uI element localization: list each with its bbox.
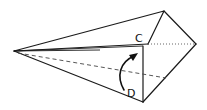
fold-line-dashed <box>18 53 166 78</box>
upper-flap-edge <box>14 11 164 51</box>
label-d: D <box>127 87 135 100</box>
label-c: C <box>135 32 143 45</box>
right-bottom-edge <box>143 44 196 102</box>
origami-diagram: C D <box>0 0 207 110</box>
arrow-head-icon <box>129 53 138 61</box>
lower-left-edge <box>14 51 143 102</box>
top-right-edge <box>164 11 196 44</box>
fold-arrow-icon <box>120 56 134 90</box>
